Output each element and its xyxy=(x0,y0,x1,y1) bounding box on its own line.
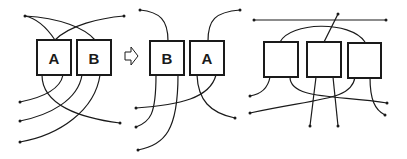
box-b-label: B xyxy=(89,50,100,67)
panel-three-box xyxy=(249,13,389,128)
panel-after: B A xyxy=(135,9,242,152)
hollow-right-arrow-icon xyxy=(125,47,138,65)
box-a-label: A xyxy=(49,50,60,67)
box-1 xyxy=(264,42,298,77)
box-b-swapped-label: B xyxy=(162,50,173,67)
panel-before: A B xyxy=(19,15,126,144)
diagram-canvas: A B B A xyxy=(0,0,407,159)
box-a-swapped-label: A xyxy=(202,50,213,67)
diagram-svg: A B B A xyxy=(0,0,407,159)
box-3 xyxy=(348,43,381,78)
box-2 xyxy=(307,42,341,77)
